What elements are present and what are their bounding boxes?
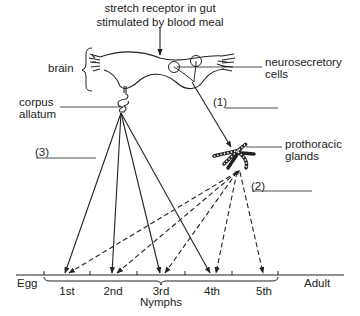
- blank-label-2: (2): [251, 180, 265, 192]
- prothoracic-arrows: [69, 172, 263, 273]
- corpus-line-1: corpus: [19, 96, 56, 108]
- corpus-allatum-arrows: [65, 113, 210, 273]
- stretch-receptor-title: stretch receptor in gut stimulated by bl…: [95, 2, 225, 28]
- stage-1st: 1st: [52, 285, 82, 297]
- nymphs-brace: [44, 277, 278, 285]
- prothoracic-glands-label: prothoracic glands: [285, 138, 342, 162]
- neurosecretory-line-1: neurosecretory: [265, 56, 342, 68]
- brain-outline: [89, 52, 235, 89]
- egg-label: Egg: [17, 277, 37, 289]
- title-line-2: stimulated by blood meal: [95, 16, 225, 28]
- blank-label-3: (3): [35, 146, 49, 158]
- corpus-allatum-label: corpus allatum: [19, 96, 56, 120]
- stage-4th: 4th: [197, 285, 227, 297]
- neurosecretory-line-2: cells: [265, 68, 342, 80]
- title-line-1: stretch receptor in gut: [95, 2, 225, 14]
- stage-2nd: 2nd: [98, 285, 128, 297]
- prothoracic-line-2: glands: [285, 150, 342, 162]
- prothoracic-line-1: prothoracic: [285, 138, 342, 150]
- stage-5th: 5th: [249, 285, 279, 297]
- brain-label: brain: [48, 62, 74, 74]
- prothoracic-glands-shape: [214, 144, 254, 168]
- corpus-line-2: allatum: [19, 108, 56, 120]
- neurosecretory-to-prothoracic-arrow: [192, 82, 231, 147]
- adult-label: Adult: [304, 277, 330, 289]
- neurosecretory-label: neurosecretory cells: [265, 56, 342, 80]
- corpus-allatum-shape: [118, 86, 129, 112]
- nymphs-label: Nymphs: [131, 296, 191, 308]
- blank-label-1: (1): [213, 96, 227, 108]
